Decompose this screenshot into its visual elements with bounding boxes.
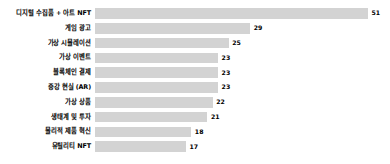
bar-track: 17	[95, 140, 390, 153]
bar-value-label: 23	[222, 55, 231, 61]
bar-track: 18	[95, 125, 390, 138]
bar-row: 가상 이벤트 23	[0, 51, 390, 64]
category-label: 물리적 제품 혁신	[0, 128, 95, 135]
bar-fill	[95, 127, 191, 138]
bar-area: 21	[95, 110, 390, 123]
bar-row: 물리적 제품 혁신 18	[0, 125, 390, 138]
bar-track: 23	[95, 66, 390, 79]
category-label: 가상 이벤트	[0, 54, 95, 61]
bar-value-label: 21	[211, 114, 220, 120]
bar-area: 25	[95, 37, 390, 50]
bar-track: 29	[95, 22, 390, 35]
category-label: 게임 광고	[0, 25, 95, 32]
bar-value-label: 23	[222, 70, 231, 76]
bar-value-label: 29	[254, 25, 263, 31]
bar-track: 23	[95, 81, 390, 94]
bar-value-label: 22	[216, 99, 225, 105]
bar-fill	[95, 67, 218, 78]
category-label: 유틸리티 NFT	[0, 143, 95, 150]
category-label: 블록체인 결제	[0, 69, 95, 76]
category-label: 디지털 수집품 + 아트 NFT	[0, 10, 95, 17]
bar-track: 51	[95, 7, 390, 20]
bar-value-label: 18	[195, 129, 204, 135]
category-label: 가상 상품	[0, 99, 95, 106]
bar-area: 22	[95, 96, 390, 109]
bar-row: 생태계 및 투자 21	[0, 110, 390, 123]
bar-row: 증강 현실 (AR) 23	[0, 81, 390, 94]
bar-area: 23	[95, 81, 390, 94]
bar-row: 게임 광고 29	[0, 22, 390, 35]
bar-value-label: 51	[372, 10, 381, 16]
bar-value-label: 17	[190, 144, 199, 150]
bar-area: 18	[95, 125, 390, 138]
bar-row: 가상 상품 22	[0, 96, 390, 109]
bar-fill	[95, 38, 229, 49]
bar-value-label: 25	[232, 40, 241, 46]
bar-row: 가상 시뮬레이션 25	[0, 37, 390, 50]
bar-area: 29	[95, 22, 390, 35]
bar-fill	[95, 53, 218, 64]
bar-fill	[95, 97, 213, 108]
bar-row: 블록체인 결제 23	[0, 66, 390, 79]
category-label: 가상 시뮬레이션	[0, 40, 95, 47]
bar-area: 17	[95, 140, 390, 153]
bar-fill	[95, 141, 186, 152]
horizontal-bar-chart: 디지털 수집품 + 아트 NFT 51 게임 광고 29 가상 시뮬레이션 25…	[0, 0, 390, 164]
bar-area: 23	[95, 66, 390, 79]
bar-fill	[95, 82, 218, 93]
bar-row: 디지털 수집품 + 아트 NFT 51	[0, 7, 390, 20]
bar-value-label: 23	[222, 84, 231, 90]
bar-track: 23	[95, 51, 390, 64]
bar-area: 23	[95, 51, 390, 64]
bar-fill	[95, 112, 207, 123]
bar-fill	[95, 23, 250, 34]
bar-fill	[95, 8, 368, 19]
bar-track: 22	[95, 96, 390, 109]
category-label: 증강 현실 (AR)	[0, 84, 95, 91]
bar-row: 유틸리티 NFT 17	[0, 140, 390, 153]
category-label: 생태계 및 투자	[0, 114, 95, 121]
bar-track: 21	[95, 110, 390, 123]
bar-track: 25	[95, 37, 390, 50]
bar-area: 51	[95, 7, 390, 20]
